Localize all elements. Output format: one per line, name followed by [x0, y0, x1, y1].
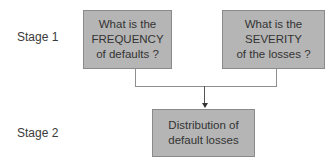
frequency-box-line-2: FREQUENCY [91, 32, 163, 47]
connector-center-vertical [204, 86, 205, 104]
frequency-box-line-3: of defaults ? [96, 47, 159, 62]
severity-box: What is the SEVERITY of the losses ? [222, 10, 325, 69]
connector-left-vertical [135, 69, 136, 87]
frequency-box: What is the FREQUENCY of defaults ? [83, 10, 172, 69]
connector-horizontal [135, 86, 277, 87]
distribution-box-line-1: Distribution of [168, 118, 238, 133]
severity-box-line-3: of the losses ? [236, 47, 310, 62]
arrow-down-icon [202, 103, 208, 108]
distribution-box-line-2: default losses [168, 133, 238, 148]
stage-1-label: Stage 1 [17, 30, 58, 44]
distribution-box: Distribution of default losses [152, 109, 255, 157]
severity-box-line-1: What is the [245, 17, 303, 32]
severity-box-line-2: SEVERITY [245, 32, 302, 47]
connector-right-vertical [276, 69, 277, 87]
frequency-box-line-1: What is the [99, 17, 157, 32]
stage-2-label: Stage 2 [17, 126, 58, 140]
